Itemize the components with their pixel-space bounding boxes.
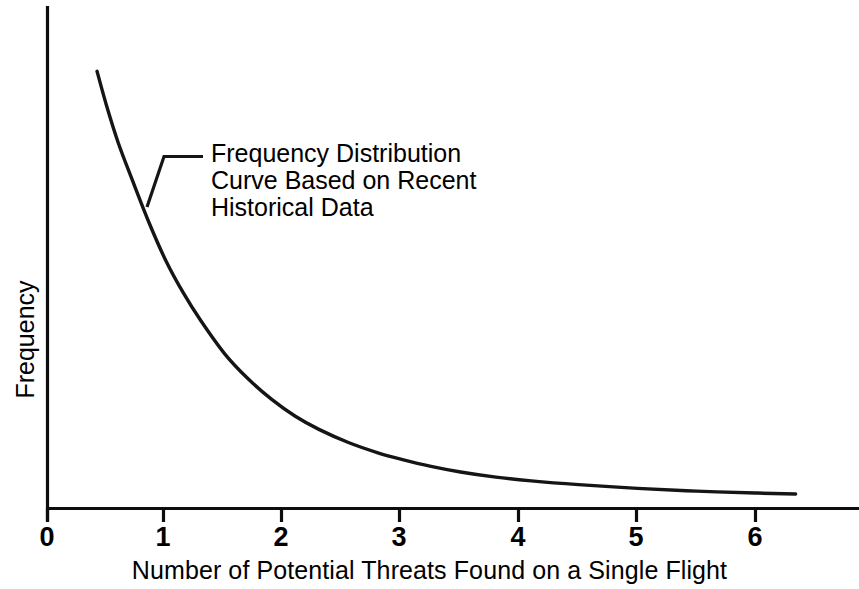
callout-leader-line [147, 157, 203, 208]
callout-line-3: Historical Data [211, 194, 476, 221]
frequency-distribution-curve [97, 71, 796, 494]
callout-line-2: Curve Based on Recent [211, 167, 476, 194]
x-tick-label-2: 2 [261, 524, 301, 551]
y-axis-title: Frequency [11, 270, 40, 410]
x-tick-label-4: 4 [498, 524, 538, 551]
x-tick-label-6: 6 [735, 524, 775, 551]
curve-callout-annotation: Frequency Distribution Curve Based on Re… [211, 140, 476, 221]
x-tick-label-0: 0 [27, 524, 67, 551]
callout-line-1: Frequency Distribution [211, 140, 476, 167]
x-axis-title: Number of Potential Threats Found on a S… [0, 556, 859, 585]
frequency-distribution-chart: 0 1 2 3 4 5 6 Number of Potential Threat… [0, 0, 859, 589]
chart-plot-area [0, 0, 859, 589]
x-tick-label-5: 5 [616, 524, 656, 551]
x-tick-label-3: 3 [379, 524, 419, 551]
x-tick-label-1: 1 [143, 524, 183, 551]
